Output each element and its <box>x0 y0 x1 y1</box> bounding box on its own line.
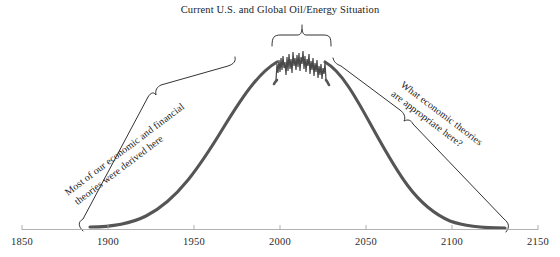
energy-curve <box>90 62 277 227</box>
x-tick-label-2150: 2150 <box>527 236 549 247</box>
left-annotation-line2: theories were derived here <box>72 132 166 206</box>
x-tick-label-1950: 1950 <box>183 236 205 247</box>
x-tick-label-2050: 2050 <box>355 236 377 247</box>
chart-title: Current U.S. and Global Oil/Energy Situa… <box>181 4 380 15</box>
left-annotation: Most of our economic and financial theor… <box>63 101 194 208</box>
x-tick-label-2100: 2100 <box>441 236 463 247</box>
left-annotation-line1: Most of our economic and financial <box>63 101 187 198</box>
peak-brace <box>272 25 331 46</box>
footer-clipped-text <box>0 248 560 257</box>
figure-root: Current U.S. and Global Oil/Energy Situa… <box>0 0 560 257</box>
peak-volatility <box>274 51 329 85</box>
right-annotation: What economic theories are appropriate h… <box>389 78 484 158</box>
x-tick-label-1900: 1900 <box>97 236 119 247</box>
oil-energy-peak-chart: Current U.S. and Global Oil/Energy Situa… <box>0 0 560 257</box>
x-axis-labels: 1850 1900 1950 2000 2050 2100 2150 <box>11 236 549 247</box>
x-tick-label-1850: 1850 <box>11 236 33 247</box>
x-tick-label-2000: 2000 <box>269 236 291 247</box>
right-brace <box>333 58 508 232</box>
